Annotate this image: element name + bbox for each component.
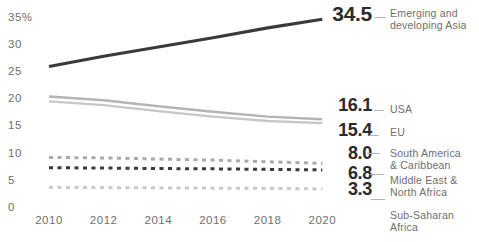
series-label-middle-east-north-africa: Middle East & North Africa [390,175,457,198]
x-axis-tick-2010: 2010 [35,214,63,226]
series-line-usa [49,96,322,119]
connector-usa [374,110,384,111]
y-axis-tick-10: 10 [8,147,22,159]
x-axis-tick-2018: 2018 [254,214,282,226]
chart-plot-area: 35%302520151050201020122014201620182020 [0,0,479,242]
line-chart: 35%302520151050201020122014201620182020 … [0,0,479,242]
x-axis-tick-2016: 2016 [199,214,227,226]
y-axis-tick-20: 20 [8,92,22,104]
series-label-sub-saharan-africa: Sub-Saharan Africa [390,210,454,233]
series-label-south-america-caribbean: South America & Caribbean [390,148,461,171]
series-line-emerging-and-developing-asia [49,19,322,66]
series-line-south-america-caribbean [49,157,322,163]
x-axis-tick-2014: 2014 [145,214,173,226]
y-axis-tick-30: 30 [8,38,22,50]
end-value-sub-saharan-africa: 3.3 [348,180,372,198]
y-axis-tick-35: 35% [8,11,33,23]
series-label-usa: USA [390,104,412,116]
end-value-emerging-developing-asia: 34.5 [332,3,372,24]
series-label-emerging-developing-asia: Emerging and developing Asia [390,8,467,31]
connector-emerging-developing-asia [375,17,386,18]
end-value-usa: 16.1 [338,96,372,114]
series-line-sub-saharan-africa [49,187,322,189]
end-value-eu: 15.4 [338,121,372,139]
connector-sub-saharan-africa [371,199,385,200]
y-axis-tick-15: 15 [8,119,22,131]
connector-eu [369,135,379,136]
x-axis-tick-2012: 2012 [90,214,118,226]
series-label-eu: EU [390,127,405,139]
y-axis-tick-5: 5 [8,174,15,186]
series-line-middle-east-north-africa [49,168,322,170]
y-axis-tick-0: 0 [8,201,15,213]
y-axis-tick-25: 25 [8,65,22,77]
series-line-eu [49,101,322,123]
x-axis-tick-2020: 2020 [309,214,337,226]
connector-south-america-caribbean [367,153,380,154]
connector-middle-east-north-africa [370,174,384,175]
